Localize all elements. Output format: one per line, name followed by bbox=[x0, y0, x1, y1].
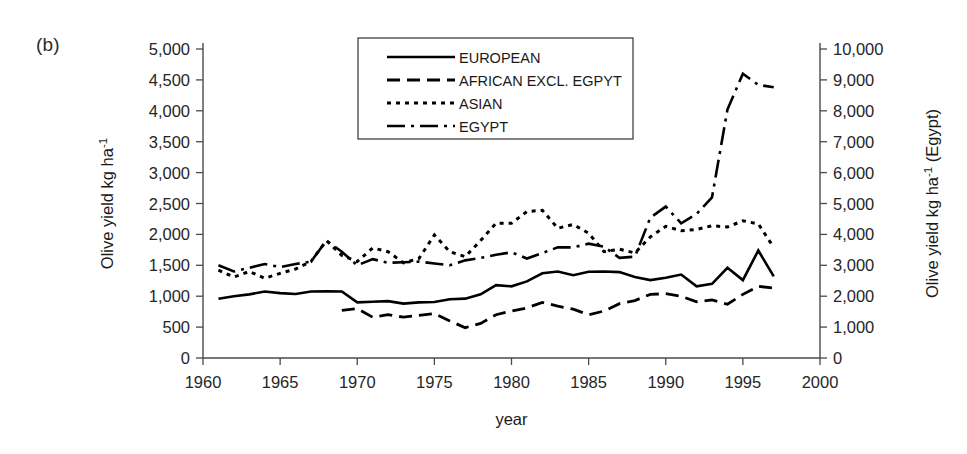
series-line-asian bbox=[218, 210, 773, 278]
x-axis-tick-label: 1985 bbox=[570, 373, 607, 391]
x-axis-tick-label: 1980 bbox=[493, 373, 530, 391]
x-axis-title: year bbox=[495, 410, 528, 428]
left-axis-tick-label: 5,000 bbox=[149, 40, 190, 58]
series-line-african-excl-egpyt bbox=[342, 286, 774, 327]
x-axis-tick-label: 1970 bbox=[339, 373, 376, 391]
legend-label: EUROPEAN bbox=[459, 50, 540, 66]
x-axis-tick-label: 2000 bbox=[802, 373, 839, 391]
x-axis-tick-label: 1960 bbox=[185, 373, 222, 391]
chart-legend: EUROPEANAFRICAN EXCL. EGPYTASIANEGYPT bbox=[358, 38, 633, 139]
right-axis-tick-label: 6,000 bbox=[833, 164, 874, 182]
left-axis-tick-label: 1,500 bbox=[149, 256, 190, 274]
x-axis: 196019651970197519801985199019952000 bbox=[185, 358, 839, 391]
figure-panel: (b) 05001,0001,5002,0002,5003,0003,5004,… bbox=[0, 0, 967, 454]
right-axis-title-superscript: -1 bbox=[922, 167, 934, 177]
olive-yield-line-chart: 05001,0001,5002,0002,5003,0003,5004,0004… bbox=[0, 0, 967, 454]
right-axis-tick-label: 7,000 bbox=[833, 133, 874, 151]
right-y-axis: 01,0002,0003,0004,0005,0006,0007,0008,00… bbox=[820, 40, 883, 367]
x-axis-tick-label: 1965 bbox=[262, 373, 299, 391]
left-axis-title-superscript: -1 bbox=[97, 138, 109, 148]
series-line-european bbox=[218, 250, 773, 303]
x-axis-tick-label: 1995 bbox=[725, 373, 762, 391]
left-axis-title: Olive yield kg ha-1 bbox=[97, 138, 116, 269]
left-y-axis: 05001,0001,5002,0002,5003,0003,5004,0004… bbox=[149, 40, 203, 367]
right-axis-title-tail: (Egypt) bbox=[923, 109, 941, 167]
legend-label: EGYPT bbox=[459, 119, 508, 135]
left-axis-tick-label: 4,500 bbox=[149, 71, 190, 89]
right-axis-tick-label: 8,000 bbox=[833, 102, 874, 120]
left-axis-tick-label: 500 bbox=[162, 318, 190, 336]
right-axis-tick-label: 2,000 bbox=[833, 287, 874, 305]
right-axis-tick-label: 4,000 bbox=[833, 225, 874, 243]
left-axis-tick-label: 3,500 bbox=[149, 133, 190, 151]
right-axis-title: Olive yield kg ha-1 (Egypt) bbox=[922, 109, 941, 298]
right-axis-tick-label: 1,000 bbox=[833, 318, 874, 336]
right-axis-tick-label: 3,000 bbox=[833, 256, 874, 274]
left-axis-tick-label: 0 bbox=[181, 349, 190, 367]
legend-label: AFRICAN EXCL. EGPYT bbox=[459, 73, 622, 89]
x-axis-tick-label: 1975 bbox=[416, 373, 453, 391]
right-axis-tick-label: 10,000 bbox=[833, 40, 883, 58]
right-axis-tick-label: 9,000 bbox=[833, 71, 874, 89]
left-axis-tick-label: 1,000 bbox=[149, 287, 190, 305]
left-axis-tick-label: 2,000 bbox=[149, 225, 190, 243]
left-axis-tick-label: 4,000 bbox=[149, 102, 190, 120]
right-axis-tick-label: 5,000 bbox=[833, 195, 874, 213]
right-axis-tick-label: 0 bbox=[833, 349, 842, 367]
left-axis-tick-label: 2,500 bbox=[149, 195, 190, 213]
left-axis-tick-label: 3,000 bbox=[149, 164, 190, 182]
legend-label: ASIAN bbox=[459, 96, 503, 112]
x-axis-tick-label: 1990 bbox=[647, 373, 684, 391]
